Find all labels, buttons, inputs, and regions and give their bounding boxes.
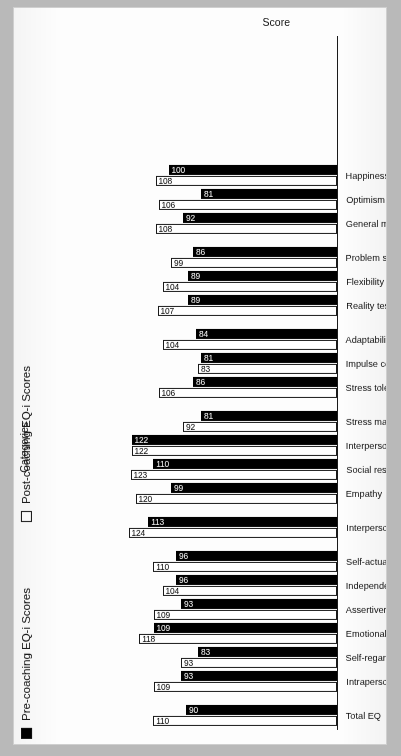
category-tick-text: Total EQ (346, 711, 381, 721)
bar-post: 109 (154, 610, 337, 620)
bar-value-label: 81 (204, 190, 213, 198)
bar-pre: 122 (132, 435, 337, 445)
bar-post: 93 (181, 658, 337, 668)
category-tick-text: Self-regard (346, 653, 386, 663)
category-tick-text: Self-actualisation (346, 557, 386, 567)
bar-value-label: 86 (196, 378, 205, 386)
bar-value-label: 104 (166, 283, 179, 291)
bar-group: 10993 (120, 668, 338, 692)
bar-value-label: 109 (157, 624, 170, 632)
bar-pre: 86 (193, 247, 337, 257)
category-tick-label: Emotional self-awareness (346, 622, 386, 642)
bar-group: 8381 (120, 350, 338, 374)
bar-post: 106 (159, 388, 337, 398)
category-tick-text: Empathy (346, 489, 382, 499)
bar-value-label: 107 (161, 307, 174, 315)
bar-post: 122 (132, 446, 337, 456)
bar-group: 10484 (120, 326, 338, 350)
bar-pre: 93 (181, 599, 337, 609)
bar-group: 12099 (120, 480, 338, 504)
category-tick-text: Social responsibility (346, 465, 386, 475)
bar-value-label: 106 (162, 201, 175, 209)
legend-swatch-pre-icon (21, 728, 32, 739)
bar-post: 118 (139, 634, 337, 644)
bar-value-label: 110 (156, 563, 169, 571)
category-tick-label: Adaptability (346, 328, 386, 348)
x-axis-title: Score (263, 16, 290, 28)
bar-value-label: 122 (135, 436, 148, 444)
bar-value-label: 109 (157, 683, 170, 691)
category-tick-label: Impulse control (346, 352, 386, 372)
bar-value-label: 110 (156, 717, 169, 725)
bar-post: 104 (163, 586, 337, 596)
bar-group: 10489 (120, 268, 338, 292)
bar-value-label: 93 (184, 659, 193, 667)
category-tick-label: Total EQ (346, 704, 386, 724)
bar-pre: 81 (201, 353, 337, 363)
bar-pre: 90 (186, 705, 337, 715)
bar-value-label: 93 (184, 672, 193, 680)
bar-post: 108 (156, 176, 337, 186)
category-tick-text: Impulse control (346, 359, 386, 369)
bar-value-label: 99 (174, 259, 183, 267)
bar-pre: 92 (183, 213, 337, 223)
bar-group: 123110 (120, 456, 338, 480)
category-tick-text: Optimism (346, 195, 385, 205)
category-tick-label: Empathy (346, 482, 386, 502)
bar-value-label: 109 (157, 611, 170, 619)
bar-pre: 84 (196, 329, 337, 339)
legend-item-pre-coaching: Pre-coaching EQ-i Scores (20, 588, 32, 739)
category-tick-label: Reality testing (346, 294, 386, 314)
bar-group: 9383 (120, 644, 338, 668)
bar-group: 9986 (120, 244, 338, 268)
bar-group: 10681 (120, 186, 338, 210)
bar-value-label: 89 (191, 296, 200, 304)
category-tick-label: Self-actualisation (346, 550, 386, 570)
category-tick-text: Interpersonal relationship (346, 441, 386, 451)
legend-swatch-post-icon (21, 511, 32, 522)
bar-group: 9281 (120, 408, 338, 432)
bar-value-label: 83 (201, 648, 210, 656)
category-tick-label: Interpersonal relationship (346, 434, 386, 454)
bar-group: 10993 (120, 596, 338, 620)
bar-value-label: 123 (134, 471, 147, 479)
bar-value-label: 113 (151, 518, 164, 526)
bar-group: 10892 (120, 210, 338, 234)
bar-value-label: 104 (166, 341, 179, 349)
bar-post: 124 (129, 528, 337, 538)
bar-post: 110 (153, 562, 337, 572)
bar-group: 10496 (120, 572, 338, 596)
bar-value-label: 81 (204, 354, 213, 362)
category-tick-label: Optimism (346, 188, 386, 208)
bar-group: 10686 (120, 374, 338, 398)
bar-group: 108100 (120, 162, 338, 186)
category-tick-label: Problem solving (346, 246, 386, 266)
bar-pre: 100 (169, 165, 337, 175)
bar-post: 104 (163, 340, 337, 350)
bar-value-label: 120 (139, 495, 152, 503)
category-tick-label: Self-regard (346, 646, 386, 666)
category-tick-text: Flexibility (346, 277, 384, 287)
bar-pre: 99 (171, 483, 337, 493)
bar-value-label: 90 (189, 706, 198, 714)
bar-pre: 89 (188, 271, 337, 281)
bar-value-label: 89 (191, 272, 200, 280)
category-tick-label: Flexibility (346, 270, 386, 290)
bar-value-label: 108 (159, 225, 172, 233)
category-tick-label: Social responsibility (346, 458, 386, 478)
category-tick-label: Independence (346, 574, 386, 594)
category-tick-label: Intrapersonal (346, 670, 386, 690)
chart-legend: Pre-coaching EQ-i Scores Post-coaching E… (20, 164, 46, 594)
category-tick-text: Intrapersonal (346, 677, 386, 687)
bar-post: 83 (198, 364, 337, 374)
bar-post: 92 (183, 422, 337, 432)
category-tick-text: General mood (346, 219, 386, 229)
bar-pre: 89 (188, 295, 337, 305)
plot-area: 1109010993938311810910993104961109612411… (120, 36, 338, 730)
scanned-page: Pre-coaching EQ-i Scores Post-coaching E… (14, 8, 386, 744)
bar-value-label: 92 (186, 214, 195, 222)
bar-value-label: 124 (132, 529, 145, 537)
bar-value-label: 104 (166, 587, 179, 595)
category-tick-label: Assertiveness (346, 598, 386, 618)
category-tick-text: Reality testing (346, 301, 386, 311)
